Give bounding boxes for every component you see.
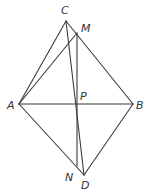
label-D: D (81, 179, 89, 192)
geometry-diagram: C M A P B N D (0, 0, 152, 195)
label-P: P (80, 90, 87, 103)
segment-DB (84, 104, 133, 175)
label-C: C (61, 4, 69, 17)
label-M: M (81, 22, 91, 35)
segment-AC (19, 21, 66, 104)
diagram-svg: C M A P B N D (0, 0, 152, 195)
segments-group (19, 21, 133, 175)
segment-AD (19, 104, 84, 175)
label-B: B (136, 99, 144, 112)
label-A: A (6, 99, 15, 112)
label-N: N (65, 171, 73, 184)
